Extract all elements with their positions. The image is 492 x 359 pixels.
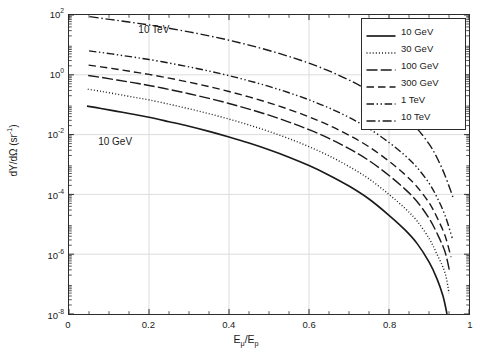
- x-axis-title: Eμ/Ep: [0, 333, 492, 345]
- y-tick-exponent: -2: [58, 128, 64, 135]
- x-tick-label: 0.8: [383, 319, 396, 330]
- legend-item-30-gev[interactable]: 30 GeV: [362, 40, 465, 57]
- chart-figure: 10210010-210-410-610-8 dY/dΩ (sr-1) 00.2…: [0, 0, 492, 359]
- y-tick-label: 10-4: [47, 189, 64, 200]
- legend-item-label: 10 TeV: [401, 111, 430, 122]
- y-tick-label: 100: [50, 69, 64, 80]
- y-axis-title-main: dY/dΩ (sr: [8, 134, 19, 177]
- x-tick-label: 0.6: [303, 319, 316, 330]
- y-axis-title-exponent: -1: [6, 128, 13, 134]
- x-tick-label: 1: [467, 319, 472, 330]
- y-axis-title-tail: ): [8, 124, 19, 127]
- legend-item-100-gev[interactable]: 100 GeV: [362, 57, 465, 74]
- legend-item-10-gev[interactable]: 10 GeV: [362, 23, 465, 40]
- y-tick-exponent: -4: [58, 188, 64, 195]
- legend-item-label: 30 GeV: [401, 43, 433, 54]
- legend-item-label: 100 GeV: [401, 60, 439, 71]
- legend-item-10-tev[interactable]: 10 TeV: [362, 108, 465, 125]
- y-tick-mantissa: 10: [47, 189, 58, 200]
- y-tick-label: 10-2: [47, 129, 64, 140]
- x-tick-label: 0.4: [222, 319, 235, 330]
- legend-line-swatch: [366, 61, 396, 71]
- legend-item-label: 300 GeV: [401, 77, 439, 88]
- legend-line-swatch: [366, 78, 396, 88]
- y-tick-mantissa: 10: [50, 9, 61, 20]
- x-axis-tick-labels: 00.20.40.60.81: [68, 319, 470, 333]
- curve-10-gev: [87, 106, 447, 314]
- legend: 10 GeV30 GeV100 GeV300 GeV1 TeV10 TeV: [361, 18, 466, 130]
- y-tick-exponent: -8: [58, 308, 64, 315]
- legend-line-swatch: [366, 27, 396, 37]
- y-tick-mantissa: 10: [50, 69, 61, 80]
- y-tick-label: 10-6: [47, 249, 64, 260]
- legend-item-label: 1 TeV: [401, 94, 425, 105]
- x-axis-title-mid: /E: [245, 333, 255, 345]
- y-tick-label: 10-8: [47, 310, 64, 321]
- y-tick-exponent: -6: [58, 248, 64, 255]
- x-tick-label: 0: [65, 319, 70, 330]
- annotation-10-gev: 10 GeV: [98, 136, 132, 147]
- y-tick-mantissa: 10: [47, 129, 58, 140]
- x-axis-title-sub-p: p: [255, 339, 259, 348]
- y-tick-exponent: 0: [60, 68, 64, 75]
- legend-item-label: 10 GeV: [401, 26, 433, 37]
- y-tick-mantissa: 10: [47, 249, 58, 260]
- legend-line-swatch: [366, 95, 396, 105]
- y-tick-label: 102: [50, 9, 64, 20]
- y-tick-exponent: 2: [60, 7, 64, 14]
- annotation-10-tev: 10 TeV: [138, 24, 169, 35]
- legend-item-1-tev[interactable]: 1 TeV: [362, 91, 465, 108]
- y-tick-mantissa: 10: [47, 310, 58, 321]
- legend-line-swatch: [366, 112, 396, 122]
- y-axis-tick-labels: 10210010-210-410-610-8: [26, 14, 64, 315]
- x-tick-label: 0.2: [142, 319, 155, 330]
- legend-item-300-gev[interactable]: 300 GeV: [362, 74, 465, 91]
- y-axis-title: dY/dΩ (sr-1): [8, 91, 19, 211]
- legend-line-swatch: [366, 44, 396, 54]
